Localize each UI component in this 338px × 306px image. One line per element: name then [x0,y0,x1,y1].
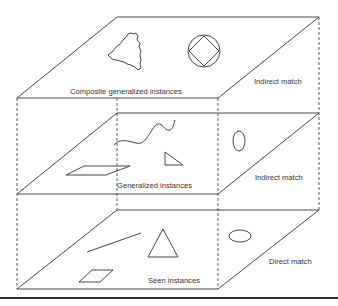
layer-middle-match-label: Indirect match [255,173,303,182]
triangle-shape [148,229,178,257]
line-segment-shape [87,233,141,252]
layer-bottom-match-label: Direct match [269,257,312,266]
right-triangle-shape [165,152,183,165]
small-parallelogram-shape [79,270,113,282]
irregular-blob-shape [108,33,141,70]
layer-top-label: Composite generalized instances [70,87,182,96]
wavy-curve-shape [114,120,175,145]
box-vertical-edges [17,17,319,289]
parallelogram-shape [66,166,130,175]
layer-bottom-plane: Seen instances [17,210,319,289]
horizontal-ellipse-shape [229,230,251,242]
vertical-ellipse-shape [233,131,245,151]
caption-divider [0,297,338,299]
layer-bottom-label: Seen instances [148,276,200,285]
layer-middle-label: Generalized instances [117,181,192,190]
circle-with-inscribed-square-shape [188,35,220,67]
layered-instances-diagram: Composite generalized instances Indirect… [0,0,338,306]
layer-top-match-label: Indirect match [254,77,302,86]
